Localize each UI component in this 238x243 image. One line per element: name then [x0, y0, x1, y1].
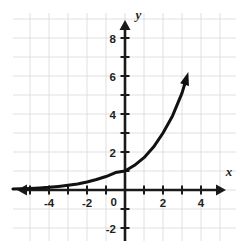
y-tick-label: 8: [110, 33, 117, 45]
origin-label: 0: [111, 196, 117, 208]
x-axis-label: x: [225, 164, 233, 179]
y-tick-label: -2: [106, 223, 116, 235]
coordinate-plane: -4-2024-22468xy: [0, 0, 238, 243]
exponential-curve: [13, 72, 189, 189]
graph-figure: -4-2024-22468xy: [0, 0, 238, 243]
y-tick-label: 2: [110, 147, 116, 159]
y-tick-label: 6: [110, 71, 116, 83]
x-tick-label: 2: [160, 197, 166, 209]
curve-line: [13, 84, 185, 189]
x-axis-arrow-right: [216, 185, 226, 196]
y-axis-arrow-up: [120, 20, 131, 30]
y-tick-label: 4: [110, 109, 117, 121]
x-tick-label: -2: [82, 197, 92, 209]
x-tick-label: 4: [198, 197, 205, 209]
x-tick-label: -4: [44, 197, 55, 209]
y-axis-label: y: [133, 7, 141, 22]
tick-labels: -4-2024-22468xy: [44, 7, 233, 235]
